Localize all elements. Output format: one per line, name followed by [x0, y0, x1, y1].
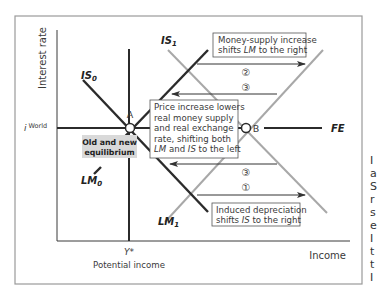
- step3-top-label: ③: [242, 82, 251, 93]
- caption-fragment: S: [370, 180, 377, 193]
- potential-income-label: Potential income: [93, 260, 165, 270]
- caption-fragment: I: [370, 154, 373, 167]
- point-a-marker: [126, 124, 135, 133]
- svg-text:Money-supply increase: Money-supply increase: [218, 35, 317, 45]
- x-axis-label: Income: [309, 250, 346, 261]
- caption-fragment: I: [370, 232, 373, 245]
- is-lm-fe-diagram: Interest rate Income iWorld Y* Potential…: [0, 0, 377, 293]
- caption-fragment: a: [370, 167, 377, 180]
- caption-fragment: s: [370, 206, 376, 219]
- svg-text:LM and IS to the left: LM and IS to the left: [154, 144, 241, 154]
- svg-text:shifts IS to the right: shifts IS to the right: [216, 215, 302, 225]
- svg-text:and real exchange: and real exchange: [154, 123, 234, 133]
- fe-curve-label: FE: [331, 123, 345, 134]
- caption-fragment: t: [370, 245, 374, 258]
- equilibrium-badge-line2: equilibrium: [84, 148, 134, 157]
- step1-label: ①: [242, 182, 251, 193]
- lm1-curve-label: LM1: [158, 216, 179, 229]
- caption-fragment: e: [370, 219, 377, 232]
- is1-curve-label: IS1: [161, 35, 177, 48]
- price-increase-box: Price increase lowers real money supply …: [150, 100, 245, 158]
- lm0-curve-label: LM0: [81, 175, 102, 188]
- svg-text:real money supply: real money supply: [154, 113, 234, 123]
- step3-bottom-label: ③: [242, 167, 251, 178]
- point-a-label: A: [127, 109, 134, 120]
- y-axis-label: Interest rate: [37, 27, 48, 89]
- caption-fragment: I: [370, 271, 373, 284]
- caption-fragment: r: [370, 193, 375, 206]
- equilibrium-badge-line1: Old and new: [82, 138, 137, 147]
- svg-text:shifts LM to the right: shifts LM to the right: [218, 45, 308, 55]
- depreciation-box: Induced depreciation shifts IS to the ri…: [212, 203, 307, 226]
- svg-text:Induced depreciation: Induced depreciation: [216, 205, 307, 215]
- lm0-curve-stub: [94, 167, 101, 174]
- point-b-marker: [242, 124, 251, 133]
- point-b-label: B: [253, 123, 260, 134]
- y-star-label: Y*: [124, 247, 134, 257]
- caption-fragment: t: [370, 258, 374, 271]
- svg-text:Price increase lowers: Price increase lowers: [154, 102, 245, 112]
- step2-label: ②: [242, 67, 251, 78]
- money-supply-box: Money-supply increase shifts LM to the r…: [213, 33, 317, 57]
- i-world-label: iWorld: [24, 122, 47, 133]
- svg-text:rate, shifting both: rate, shifting both: [154, 134, 231, 144]
